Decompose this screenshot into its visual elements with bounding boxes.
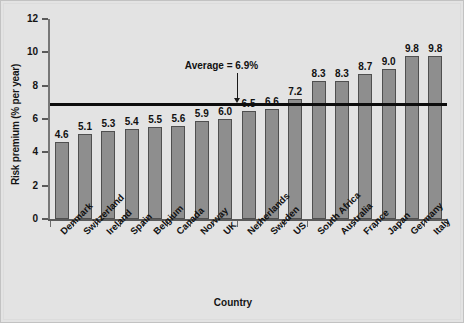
plot-area: 4.65.15.35.45.55.65.96.06.56.67.28.38.38…: [50, 19, 447, 219]
y-axis-tick: [42, 51, 48, 53]
average-annotation-label: Average = 6.9%: [185, 60, 258, 71]
bar-value-label: 6.0: [212, 106, 238, 117]
bar-value-label: 9.8: [399, 43, 425, 54]
bar: [382, 69, 396, 219]
bar-value-label: 5.4: [119, 116, 145, 127]
bar-value-label: 7.2: [282, 86, 308, 97]
y-axis-tick-label: 0: [6, 213, 38, 224]
x-axis-title: Country: [1, 297, 464, 308]
y-axis-tick: [42, 18, 48, 20]
average-arrow-shaft: [237, 73, 238, 99]
bar: [218, 119, 232, 219]
bar-value-label: 5.5: [142, 114, 168, 125]
bar-value-label: 8.3: [306, 68, 332, 79]
bar: [405, 56, 419, 219]
bar-value-label: 5.3: [95, 118, 121, 129]
average-arrow-head: [234, 98, 240, 103]
bar: [148, 127, 162, 219]
bar: [125, 129, 139, 219]
bar-value-label: 5.9: [189, 108, 215, 119]
average-reference-line: [50, 103, 447, 106]
bar-value-label: 8.7: [352, 61, 378, 72]
bar: [288, 99, 302, 219]
y-axis-tick-label: 8: [6, 80, 38, 91]
bar-value-label: 5.1: [72, 121, 98, 132]
bar-value-label: 5.6: [165, 113, 191, 124]
y-axis-tick: [42, 151, 48, 153]
bar: [312, 81, 326, 219]
y-axis-tick-label: 4: [6, 146, 38, 157]
bar: [428, 56, 442, 219]
bar-value-label: 9.8: [422, 43, 448, 54]
x-axis-category-label: US: [291, 220, 308, 237]
y-axis-tick: [42, 218, 48, 220]
y-axis-tick: [42, 118, 48, 120]
y-axis-tick: [42, 185, 48, 187]
y-axis-tick-label: 10: [6, 46, 38, 57]
y-axis-tick-label: 6: [6, 113, 38, 124]
y-axis-tick-label: 12: [6, 13, 38, 24]
y-axis-tick: [42, 85, 48, 87]
risk-premium-bar-chart: Risk premium (% per year) Country 024681…: [0, 0, 464, 323]
bar-value-label: 8.3: [329, 68, 355, 79]
bar: [242, 111, 256, 219]
bar-value-label: 4.6: [49, 129, 75, 140]
y-axis-tick-label: 2: [6, 180, 38, 191]
bar-value-label: 9.0: [376, 56, 402, 67]
bar: [55, 142, 69, 219]
x-axis-tick: [50, 221, 51, 227]
x-axis-line: [48, 219, 447, 221]
